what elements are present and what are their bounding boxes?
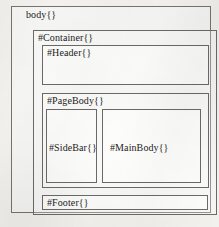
side-bar-box-label: #SideBar{} — [49, 142, 97, 153]
layout-diagram: body{} #Container{} #Header{} #PageBody{… — [0, 0, 219, 227]
main-body-box: #MainBody{} — [102, 109, 201, 183]
footer-box-label: #Footer{} — [47, 197, 89, 208]
main-body-box-label: #MainBody{} — [110, 142, 168, 153]
body-box-label: body{} — [26, 9, 56, 20]
side-bar-box: #SideBar{} — [46, 109, 97, 183]
container-box-label: #Container{} — [38, 32, 93, 43]
header-box-label: #Header{} — [47, 47, 91, 58]
page-body-box-label: #PageBody{} — [47, 95, 104, 106]
footer-box: #Footer{} — [42, 195, 208, 210]
body-box: body{} #Container{} #Header{} #PageBody{… — [11, 6, 211, 213]
header-box: #Header{} — [42, 45, 209, 85]
